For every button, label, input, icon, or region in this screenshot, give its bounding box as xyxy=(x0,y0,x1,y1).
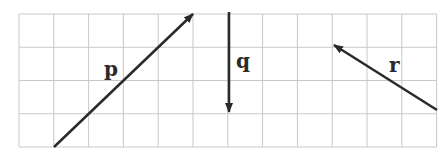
vector-label-r: r xyxy=(389,53,400,77)
vector-r: r xyxy=(334,45,437,110)
vector-grid-diagram: p q r xyxy=(0,0,448,163)
vector-label-p: p xyxy=(104,57,118,81)
vector-label-q: q xyxy=(236,49,250,73)
vector-arrow xyxy=(334,45,437,110)
vectors: p q r xyxy=(54,12,437,147)
vector-q: q xyxy=(229,12,250,112)
